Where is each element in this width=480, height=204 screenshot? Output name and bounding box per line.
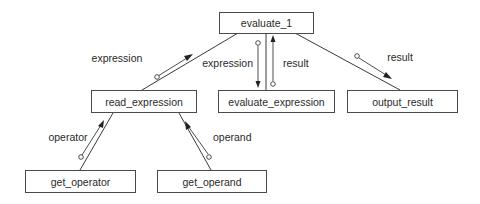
data-couple-tail-icon <box>271 82 276 87</box>
flow-label-result-2: result <box>387 51 413 63</box>
node-output-result[interactable]: output_result <box>348 91 458 113</box>
data-couple-tail-icon <box>256 41 261 46</box>
node-get-operator[interactable]: get_operator <box>26 171 136 193</box>
flow-label-result-1: result <box>283 57 309 69</box>
data-couple-tail-icon <box>207 155 212 160</box>
node-evaluate-1[interactable]: evaluate_1 <box>220 13 314 34</box>
arrowhead-icon <box>98 120 104 128</box>
flow-operand: operand <box>185 121 252 159</box>
flow-result-right: result <box>355 51 413 79</box>
node-read-expression[interactable]: read_expression <box>92 91 197 113</box>
flow-label-operator: operator <box>48 131 88 143</box>
structure-chart: expression expression result result oper… <box>0 0 480 204</box>
data-couple-tail-icon <box>79 155 84 160</box>
flow-operator: operator <box>48 120 104 159</box>
node-label: evaluate_expression <box>228 96 324 108</box>
flow-label-expression-2: expression <box>202 57 253 69</box>
flow-result-up: result <box>271 35 309 86</box>
flow-expression-up: expression <box>92 52 193 79</box>
data-couple-tail-icon <box>155 75 160 80</box>
node-get-operand[interactable]: get_operand <box>158 171 267 193</box>
arrowhead-icon <box>271 35 276 42</box>
arrowhead-icon <box>383 72 392 79</box>
node-label: output_result <box>372 96 433 108</box>
flow-label-operand: operand <box>213 131 252 143</box>
node-label: get_operand <box>183 176 242 188</box>
edge-evaluate1-output-result <box>295 33 400 90</box>
arrowhead-icon <box>256 81 261 88</box>
flow-label-expression-1: expression <box>92 52 143 64</box>
node-evaluate-expression[interactable]: evaluate_expression <box>219 91 335 113</box>
edge-read-expression-get-operand <box>179 113 211 170</box>
flow-expression-down: expression <box>202 41 260 88</box>
data-couple-tail-icon <box>355 54 360 59</box>
node-label: evaluate_1 <box>241 17 293 29</box>
node-label: read_expression <box>105 96 183 108</box>
node-label: get_operator <box>51 176 111 188</box>
